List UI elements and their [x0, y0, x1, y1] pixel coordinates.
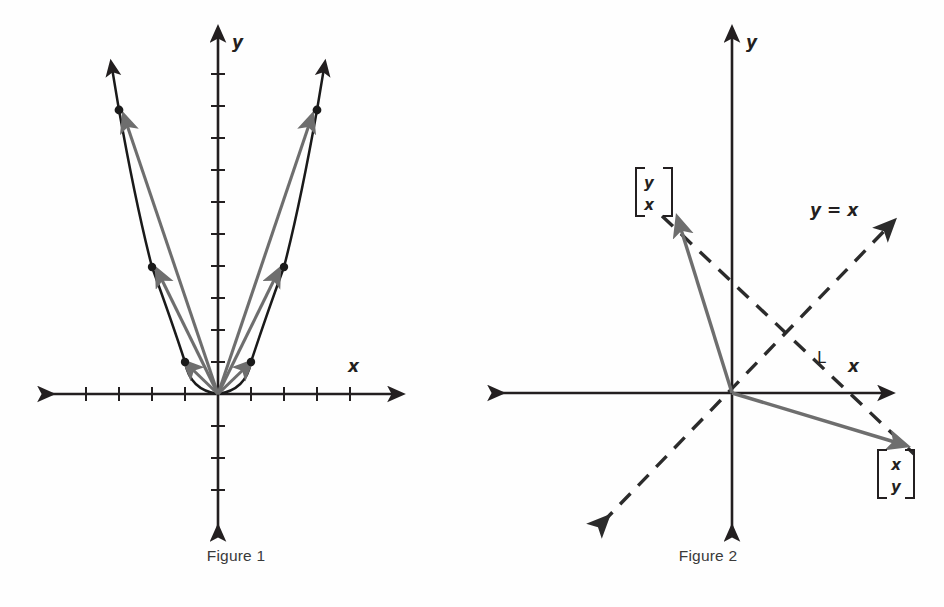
vector-xy-top-component: x — [890, 456, 902, 474]
figure-1-x-axis-label: x — [347, 356, 360, 376]
bracket-right — [906, 450, 914, 498]
figure-1-axes — [46, 34, 396, 533]
figure-2-graph: x y y x x y y = — [472, 0, 944, 560]
data-point — [181, 358, 189, 366]
vector-to-point-right-3 — [218, 122, 310, 394]
data-point — [247, 358, 255, 366]
figure-1-panel: x y — [0, 0, 472, 607]
figure-2-axes — [496, 34, 886, 533]
figure-1-y-axis-label: y — [232, 32, 244, 52]
dashed-line-y-equals-x — [602, 227, 888, 523]
data-point — [115, 106, 124, 115]
bracket-left — [878, 450, 886, 498]
figure-2-x-axis-label: x — [847, 356, 860, 376]
vector-yx-bottom-component: x — [643, 196, 655, 214]
figure-2-caption: Figure 2 — [472, 547, 944, 565]
bracket-left — [636, 168, 644, 216]
label-line-L: L — [817, 348, 826, 367]
figure-1-caption: Figure 1 — [0, 547, 472, 565]
label-vector-yx: y x — [636, 168, 672, 216]
figure-2-panel: x y y x x y y = — [472, 0, 944, 607]
vector-xy-bottom-component: y — [891, 478, 902, 496]
data-point — [280, 263, 288, 271]
vector-yx-top-component: y — [644, 174, 655, 192]
vector-yx — [680, 226, 732, 393]
label-y-equals-x: y = x — [810, 200, 859, 220]
vector-xy — [732, 393, 898, 443]
label-vector-xy: x y — [878, 450, 914, 498]
figure-page: x y — [0, 0, 944, 607]
bracket-right — [664, 168, 672, 216]
dashed-line-L — [662, 216, 914, 454]
figure-2-y-axis-label: y — [746, 32, 758, 52]
data-point — [313, 106, 322, 115]
vector-to-point-left-3 — [126, 122, 218, 394]
data-point — [148, 263, 156, 271]
figure-1-graph: x y — [0, 0, 472, 560]
